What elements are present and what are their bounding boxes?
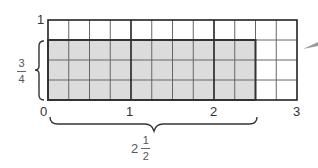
width-denominator: 2 [143, 151, 149, 162]
fraction-bar [141, 148, 150, 149]
pointer-arrow-icon [303, 42, 318, 49]
width-whole: 2 [131, 141, 138, 156]
fraction-bar [17, 71, 26, 72]
area-model-diagram [0, 0, 318, 168]
height-numerator: 3 [18, 58, 24, 69]
width-brace [50, 117, 257, 131]
width-numerator: 1 [143, 135, 149, 146]
x-tick-0: 0 [40, 105, 47, 118]
height-fraction: 3 4 [17, 58, 26, 85]
height-brace [35, 41, 44, 100]
width-fraction: 1 2 [141, 135, 150, 162]
width-mixed-number: 2 1 2 [131, 135, 150, 162]
height-denominator: 4 [18, 74, 24, 85]
x-tick-3: 3 [293, 105, 300, 118]
x-tick-2: 2 [210, 105, 217, 118]
x-tick-1: 1 [126, 105, 133, 118]
y-axis-label-top: 1 [37, 13, 44, 26]
